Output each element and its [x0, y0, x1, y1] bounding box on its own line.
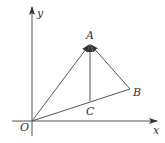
vector-diagram: y x O A B C: [0, 0, 165, 143]
vector-OA: [32, 45, 89, 121]
point-A-label: A: [85, 29, 94, 42]
point-B-label: B: [132, 86, 141, 99]
segment-OB: [32, 89, 130, 121]
vector-BA: [91, 45, 130, 89]
diagram-svg: y x O A B C: [0, 0, 165, 143]
x-axis-label: x: [153, 124, 160, 137]
origin-label: O: [20, 121, 29, 134]
point-C-label: C: [86, 105, 95, 118]
y-axis-label: y: [36, 7, 44, 20]
